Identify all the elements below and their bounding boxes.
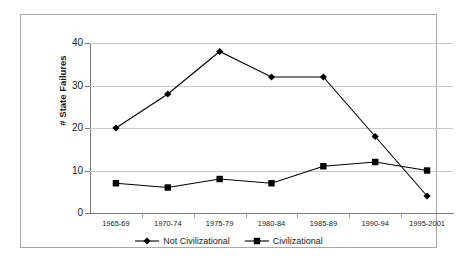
- legend-label: Civilizational: [273, 236, 323, 246]
- data-point-civilizational-1990-94: [372, 159, 378, 165]
- x-tick-label-1990-94: 1990-94: [361, 220, 389, 228]
- y-tick-mark-30: [85, 86, 90, 87]
- y-tick-mark-10: [85, 171, 90, 172]
- x-tick-label-1995-2001: 1995-2001: [409, 220, 445, 228]
- x-axis-line: [90, 213, 454, 214]
- data-point-civilizational-1970-74: [165, 184, 171, 190]
- y-tick-label-40: 40: [57, 38, 83, 48]
- legend-marker-diamond-icon: [134, 236, 160, 246]
- legend-label: Not Civilizational: [163, 236, 230, 246]
- x-tick-label-1980-84: 1980-84: [258, 220, 286, 228]
- x-tick-mark-1: [142, 213, 143, 218]
- data-point-civilizational-1980-84: [268, 180, 274, 186]
- x-tick-mark-2: [194, 213, 195, 218]
- y-tick-label-20: 20: [57, 123, 83, 133]
- x-tick-mark-3: [246, 213, 247, 218]
- y-tick-mark-40: [85, 43, 90, 44]
- series-layer: [90, 43, 453, 213]
- data-point-not-civilizational-1965-69: [112, 124, 119, 131]
- data-point-civilizational-1975-79: [216, 176, 222, 182]
- y-tick-mark-0: [85, 213, 90, 214]
- data-point-civilizational-1995-2001: [424, 167, 430, 173]
- y-tick-mark-20: [85, 128, 90, 129]
- legend-entry-not-civilizational[interactable]: Not Civilizational: [134, 236, 230, 246]
- x-tick-label-1970-74: 1970-74: [154, 220, 182, 228]
- plot-area: [90, 43, 453, 213]
- legend-marker-square-icon: [244, 236, 270, 246]
- x-tick-label-1975-79: 1975-79: [206, 220, 234, 228]
- x-tick-label-1985-89: 1985-89: [310, 220, 338, 228]
- legend-diamond-icon: [144, 237, 151, 244]
- x-tick-label-1965-69: 1965-69: [102, 220, 130, 228]
- x-tick-mark-6: [401, 213, 402, 218]
- y-tick-label-30: 30: [57, 81, 83, 91]
- legend-square-icon: [254, 238, 260, 244]
- series-line-not-civilizational: [116, 52, 427, 197]
- legend-entry-civilizational[interactable]: Civilizational: [244, 236, 323, 246]
- x-tick-mark-4: [297, 213, 298, 218]
- data-point-civilizational-1985-89: [320, 163, 326, 169]
- x-tick-mark-5: [349, 213, 350, 218]
- chart-frame: # State Failures 010203040 1965-691970-7…: [20, 14, 437, 248]
- y-tick-label-0: 0: [57, 208, 83, 218]
- y-tick-label-10: 10: [57, 166, 83, 176]
- y-axis-tick-labels: 010203040: [53, 15, 83, 249]
- chart-legend: Not CivilizationalCivilizational: [21, 231, 436, 251]
- data-point-not-civilizational-1980-84: [268, 73, 275, 80]
- data-point-civilizational-1965-69: [113, 180, 119, 186]
